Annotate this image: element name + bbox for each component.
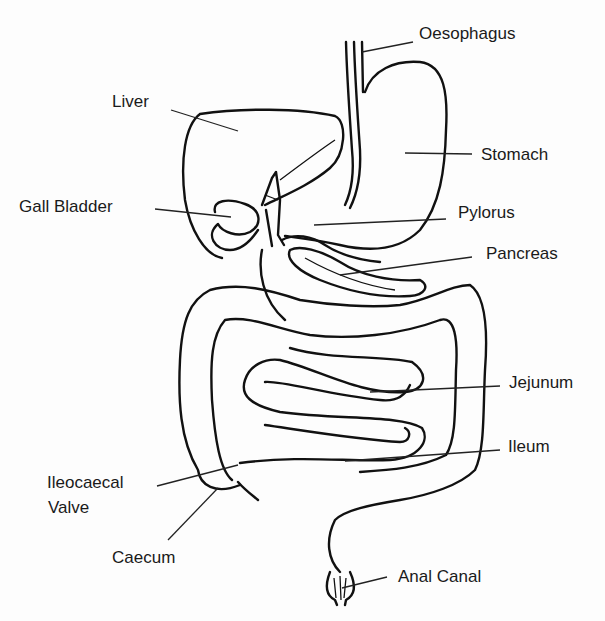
- gall-bladder-shape: [212, 201, 258, 250]
- label-liver: Liver: [112, 92, 149, 112]
- label-caecum: Caecum: [112, 548, 175, 568]
- label-pylorus: Pylorus: [458, 203, 515, 223]
- label-gall-bladder: Gall Bladder: [19, 197, 113, 217]
- label-jejunum: Jejunum: [509, 373, 573, 393]
- digestive-system-diagram: Oesophagus Liver Stomach Gall Bladder Py…: [0, 0, 605, 621]
- label-stomach: Stomach: [481, 145, 548, 165]
- diagram-drawing: [0, 0, 605, 621]
- label-anal-canal: Anal Canal: [398, 567, 481, 587]
- leader-lines: [155, 42, 500, 588]
- small-intestine-shape: [240, 348, 425, 463]
- large-intestine-shape: [179, 285, 486, 572]
- label-ileocaecal-valve-line1: Ileocaecal: [47, 473, 124, 493]
- oesophagus-shape: [345, 42, 363, 208]
- liver-shape: [183, 110, 343, 258]
- label-ileocaecal-valve-line2: Valve: [48, 498, 89, 518]
- label-ileum: Ileum: [508, 437, 550, 457]
- label-oesophagus: Oesophagus: [419, 24, 515, 44]
- label-pancreas: Pancreas: [486, 244, 558, 264]
